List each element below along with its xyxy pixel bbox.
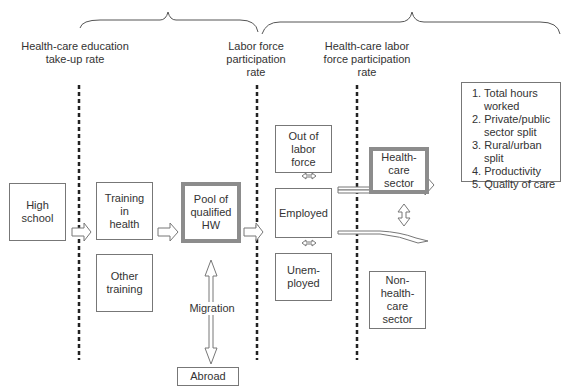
node-training-in-health: Training in health bbox=[96, 182, 153, 240]
node-employed: Employed bbox=[275, 188, 332, 238]
node-non-healthcare-sector: Non- health- care sector bbox=[369, 271, 426, 329]
arrow-to-non-healthcare bbox=[338, 231, 428, 243]
node-abroad: Abroad bbox=[177, 367, 239, 386]
header-healthcare-labor-participation-rate: Health-care labor force participation ra… bbox=[312, 40, 422, 79]
outcome-item: 3. Rural/urban split bbox=[472, 139, 556, 165]
node-high-school: High school bbox=[9, 183, 66, 241]
migration-label: Migration bbox=[188, 302, 236, 315]
node-out-of-labor-force: Out of labor force bbox=[275, 125, 332, 173]
header-labor-force-participation-rate: Labor force participation rate bbox=[224, 40, 288, 79]
node-other-training: Other training bbox=[96, 254, 153, 312]
header-education-takeup-rate: Health-care education take-up rate bbox=[16, 40, 134, 66]
outcome-item: 5. Quality of care bbox=[472, 178, 556, 191]
outcome-item: 4. Productivity bbox=[472, 165, 556, 178]
outcomes-list: 1. Total hours worked 2. Private/public … bbox=[461, 82, 561, 182]
node-pool-of-qualified-hw: Pool of qualified HW bbox=[181, 182, 241, 243]
node-unemployed: Unem- ployed bbox=[275, 253, 332, 301]
right-brace bbox=[262, 12, 560, 34]
outcome-item: 2. Private/public sector split bbox=[472, 113, 556, 139]
left-brace bbox=[80, 12, 258, 32]
outcome-item: 1. Total hours worked bbox=[472, 87, 556, 113]
node-healthcare-sector: Health- care sector bbox=[369, 147, 429, 194]
